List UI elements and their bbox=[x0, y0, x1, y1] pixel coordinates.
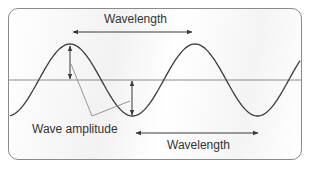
amplitude-leader-lines bbox=[71, 64, 130, 116]
wave-amplitude-label: Wave amplitude bbox=[32, 122, 118, 136]
wavelength-bottom-label: Wavelength bbox=[167, 138, 230, 152]
wavelength-top-label: Wavelength bbox=[104, 12, 167, 26]
